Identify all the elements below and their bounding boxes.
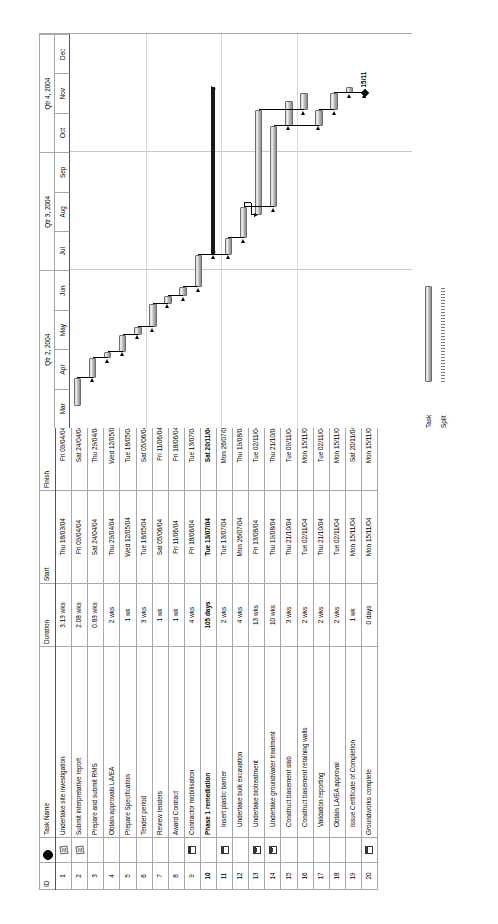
row-gridline <box>297 34 298 428</box>
cell-indicator[interactable] <box>217 838 233 863</box>
task-bar[interactable] <box>119 335 126 352</box>
dependency-arrow <box>181 297 185 301</box>
cell-indicator[interactable] <box>184 838 200 863</box>
cell-duration: 0.83 wks <box>88 584 104 647</box>
cell-task-name[interactable]: Obtain approvals LA/EA <box>104 647 120 838</box>
cell-indicator[interactable] <box>249 838 265 863</box>
cell-task-name[interactable]: Groundworks complete <box>361 647 377 838</box>
cell-id: 1 <box>56 863 72 890</box>
cell-indicator[interactable] <box>281 838 297 863</box>
cell-indicator[interactable] <box>56 838 72 863</box>
cell-indicator[interactable] <box>168 838 184 863</box>
task-bar[interactable] <box>240 207 247 238</box>
cell-indicator[interactable] <box>313 838 329 863</box>
task-bar[interactable] <box>285 101 292 126</box>
cell-start: Thu 21/10/04 <box>281 491 297 584</box>
summary-bar[interactable] <box>211 87 216 255</box>
table-row[interactable]: 3Prepare and submit RMS0.83 wksSat 24/04… <box>88 398 104 890</box>
task-bar[interactable] <box>74 378 81 406</box>
cell-id: 15 <box>281 863 297 890</box>
cell-task-name[interactable]: Issue Certificate of Completion <box>345 647 361 838</box>
table-row[interactable]: 14Undertake groundwater treatment10 wksT… <box>265 398 281 890</box>
cell-id: 17 <box>313 863 329 890</box>
cell-task-name[interactable]: Construct basement retaining walls <box>297 647 313 838</box>
cell-task-name[interactable]: Undertake bulk excavation <box>233 647 249 838</box>
cell-start: Tue 02/11/04 <box>297 491 313 584</box>
table-row[interactable]: 10Phase 1 remediation105 daysTue 13/07/0… <box>200 398 216 890</box>
cell-indicator[interactable] <box>329 838 345 863</box>
table-row[interactable]: 18Obtain LA/EA approval2 wksTue 02/11/04… <box>329 398 345 890</box>
table-row[interactable]: 4Obtain approvals LA/EA2 wksThu 29/04/04… <box>104 398 120 890</box>
cell-start: Thu 21/10/04 <box>313 491 329 584</box>
dependency-arrow <box>241 239 245 243</box>
cell-indicator[interactable] <box>265 838 281 863</box>
table-row[interactable]: 16Construct basement retaining walls2 wk… <box>297 398 313 890</box>
cell-id: 2 <box>72 863 88 890</box>
task-bar[interactable] <box>225 238 232 255</box>
task-bar[interactable] <box>315 110 322 126</box>
cell-task-name[interactable]: Obtain LA/EA approval <box>329 647 345 838</box>
cell-task-name[interactable]: Submit interpretative report <box>72 647 88 838</box>
cell-indicator[interactable] <box>104 838 120 863</box>
table-row[interactable]: 13Undertake biotreatment13 wksFri 13/08/… <box>249 398 265 890</box>
task-bar[interactable] <box>89 358 96 377</box>
cell-task-name[interactable]: Tender period <box>136 647 152 838</box>
cell-task-name[interactable]: Prepare Specification <box>120 647 136 838</box>
table-row[interactable]: 9Contractor mobilisation4 wksFri 18/06/0… <box>184 398 200 890</box>
cell-task-name[interactable]: Undertake site investigation <box>56 647 72 838</box>
cell-task-name[interactable]: Validation reporting <box>313 647 329 838</box>
cell-task-name[interactable]: Review tenders <box>152 647 168 838</box>
cell-start: Mon 15/11/04 <box>361 491 377 584</box>
cell-duration: 1 wk <box>120 584 136 647</box>
dependency-arrow <box>150 328 154 332</box>
table-row[interactable]: 2Submit interpretative report2.08 wksFri… <box>72 398 88 890</box>
cell-indicator[interactable] <box>120 838 136 863</box>
cell-id: 13 <box>249 863 265 890</box>
month-label: Nov <box>55 73 70 112</box>
cell-indicator[interactable] <box>361 838 377 863</box>
cell-duration: 2 wks <box>297 584 313 647</box>
cell-duration: 2 wks <box>217 584 233 647</box>
cell-task-name[interactable]: Construct basement slab <box>281 647 297 838</box>
table-body: 1Undertake site investigation3.13 wksThu… <box>56 398 378 890</box>
task-bar[interactable] <box>255 110 262 215</box>
table-row[interactable]: 11Insert plastic barrier2 wksTue 13/07/0… <box>217 398 233 890</box>
task-bar[interactable] <box>195 255 202 287</box>
cell-indicator[interactable] <box>233 838 249 863</box>
cell-indicator[interactable] <box>345 838 361 863</box>
cell-indicator[interactable] <box>136 838 152 863</box>
table-row[interactable]: 17Validation reporting2 wksThu 21/10/04T… <box>313 398 329 890</box>
cell-id: 16 <box>297 863 313 890</box>
table-row[interactable]: 20Groundworks complete0 daysMon 15/11/04… <box>361 398 377 890</box>
cell-task-name[interactable]: Award Contract <box>168 647 184 838</box>
cell-duration: 1 wk <box>168 584 184 647</box>
indicator-clock-icon <box>43 850 53 860</box>
cell-task-name[interactable]: Prepare and submit RMS <box>88 647 104 838</box>
table-row[interactable]: 6Tender period3 wksTue 18/05/04Sat 05/06… <box>136 398 152 890</box>
task-bar[interactable] <box>270 126 277 207</box>
cell-task-name[interactable]: Contractor mobilisation <box>184 647 200 838</box>
cell-indicator[interactable] <box>88 838 104 863</box>
cell-indicator[interactable] <box>297 838 313 863</box>
table-row[interactable]: 19Issue Certificate of Completion1 wkMon… <box>345 398 361 890</box>
table-row[interactable]: 8Award Contract1 wkFri 11/06/04Fri 18/06… <box>168 398 184 890</box>
cell-duration: 2 wks <box>329 584 345 647</box>
task-bar[interactable] <box>300 93 307 110</box>
quarter-gridline <box>70 151 412 152</box>
dependency-arrow <box>135 335 139 339</box>
cell-task-name[interactable]: Insert plastic barrier <box>217 647 233 838</box>
cell-task-name[interactable]: Phase 1 remediation <box>200 647 216 838</box>
cell-task-name[interactable]: Undertake biotreatment <box>249 647 265 838</box>
task-bar[interactable] <box>149 304 156 327</box>
cell-duration: 1 wk <box>345 584 361 647</box>
table-row[interactable]: 12Undertake bulk excavation4 wksMon 26/0… <box>233 398 249 890</box>
task-bar[interactable] <box>330 93 337 110</box>
table-row[interactable]: 1Undertake site investigation3.13 wksThu… <box>56 398 72 890</box>
cell-indicator[interactable] <box>200 838 216 863</box>
table-row[interactable]: 15Construct basement slab3 wksThu 21/10/… <box>281 398 297 890</box>
cell-task-name[interactable]: Undertake groundwater treatment <box>265 647 281 838</box>
table-row[interactable]: 5Prepare Specification1 wkWed 12/05/04Tu… <box>120 398 136 890</box>
cell-indicator[interactable] <box>152 838 168 863</box>
table-row[interactable]: 7Review tenders1 wkSat 05/06/04Fri 11/06… <box>152 398 168 890</box>
cell-indicator[interactable] <box>72 838 88 863</box>
